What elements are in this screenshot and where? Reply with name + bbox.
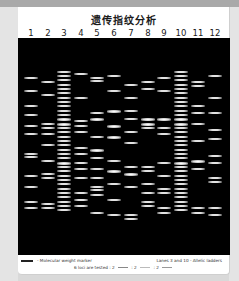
dna-band [57, 162, 71, 165]
dna-band [174, 153, 188, 155]
dna-band [57, 84, 71, 86]
dna-band [174, 162, 188, 165]
dna-band [90, 194, 104, 196]
dna-band [174, 196, 188, 198]
dna-band [41, 173, 55, 175]
dna-band [57, 101, 71, 103]
figure-title: 遗传指纹分析 [18, 12, 230, 27]
dna-band [141, 123, 155, 126]
dna-band [41, 81, 55, 83]
dna-band [124, 142, 138, 144]
right-frame [229, 7, 239, 281]
dna-band [174, 175, 188, 177]
dna-band [157, 162, 171, 164]
dna-band [24, 201, 38, 203]
dna-band [57, 136, 71, 138]
dna-band [141, 201, 155, 203]
dna-band [24, 90, 38, 92]
dna-band [208, 181, 222, 183]
dna-band [41, 123, 55, 125]
dna-band [174, 79, 188, 81]
dna-band [107, 136, 121, 139]
lane-label-10: 10 [173, 28, 189, 38]
dna-band [24, 133, 38, 135]
loci-prefix: 6 loci are tested : 2 [74, 265, 115, 270]
dna-band [157, 212, 171, 214]
dna-band [74, 120, 88, 122]
dna-band [174, 157, 188, 159]
dna-band [191, 160, 205, 163]
dna-band [174, 75, 188, 77]
lane-label-9: 9 [156, 28, 172, 38]
dna-band [208, 97, 222, 99]
dna-band [208, 75, 222, 77]
loci-swatch-2 [140, 267, 150, 268]
dna-band [191, 123, 205, 125]
dna-band [174, 205, 188, 207]
dna-band [107, 90, 121, 92]
dna-band [141, 118, 155, 121]
dna-band [57, 123, 71, 126]
dna-band [57, 88, 71, 90]
dna-band [174, 114, 188, 116]
dna-band [107, 125, 121, 128]
dna-band [41, 177, 55, 179]
dna-band [141, 81, 155, 83]
dna-band [57, 166, 71, 168]
dna-band [124, 97, 138, 99]
dna-band [141, 183, 155, 185]
dna-band [90, 77, 104, 79]
dna-band [124, 84, 138, 86]
dna-band [57, 110, 71, 112]
dna-band [24, 207, 38, 209]
left-frame [0, 7, 18, 281]
dna-band [107, 199, 121, 201]
dna-band [74, 205, 88, 207]
dna-band [191, 207, 205, 209]
dna-band [191, 112, 205, 114]
dna-band [74, 125, 88, 127]
dna-band [124, 166, 138, 168]
dna-band [208, 112, 222, 114]
dna-band [24, 175, 38, 177]
dna-band [24, 114, 38, 116]
loci-mid-1: : 2 [131, 265, 136, 270]
legend-ladder-text: Lanes 3 and 10 - Allelic ladders [156, 258, 222, 263]
dna-band [157, 118, 171, 121]
dna-band [41, 207, 55, 209]
lane-label-12: 12 [207, 28, 223, 38]
dna-band [124, 118, 138, 120]
dna-band [107, 170, 121, 173]
dna-band [90, 189, 104, 191]
dna-band [57, 79, 71, 81]
dna-band [141, 205, 155, 207]
dna-band [90, 186, 104, 188]
dna-band [124, 110, 138, 112]
dna-band [191, 212, 205, 214]
dna-band [24, 105, 38, 107]
dna-band [90, 112, 104, 114]
dna-band [57, 75, 71, 77]
dna-band [57, 209, 71, 211]
dna-band [74, 177, 88, 179]
dna-band [141, 127, 155, 129]
dna-band [57, 153, 71, 155]
dna-band [57, 71, 71, 73]
lane-label-3: 3 [56, 28, 72, 38]
dna-band [191, 85, 205, 87]
top-frame-bar [0, 0, 239, 7]
lane-label-1: 1 [23, 28, 39, 38]
dna-band [174, 123, 188, 126]
dna-band [191, 168, 205, 170]
dna-band [174, 179, 188, 181]
loci-swatch-3 [162, 267, 172, 268]
dna-band [141, 192, 155, 194]
dna-band [191, 105, 205, 107]
dna-band [57, 188, 71, 190]
dna-band [174, 110, 188, 112]
dna-band [90, 168, 104, 170]
dna-band [141, 166, 155, 168]
dna-band [124, 214, 138, 216]
dna-band [74, 153, 88, 155]
dna-band [174, 149, 188, 151]
